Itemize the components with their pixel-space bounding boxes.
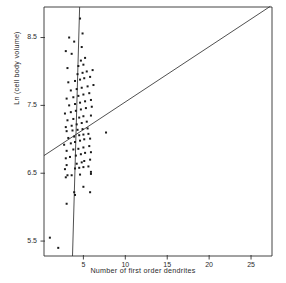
data-point: [78, 167, 80, 169]
data-point: [86, 70, 88, 72]
y-tick-label: 7.5: [15, 101, 37, 108]
data-point: [88, 92, 90, 94]
data-point: [71, 125, 73, 127]
data-point: [92, 69, 94, 71]
data-point: [71, 53, 73, 55]
fit-lines: [44, 6, 270, 256]
data-point: [90, 173, 92, 175]
data-point: [76, 123, 78, 125]
data-point: [83, 77, 85, 79]
data-point: [72, 118, 74, 120]
data-point: [80, 153, 82, 155]
data-point: [74, 80, 76, 82]
data-point: [89, 159, 91, 161]
data-point: [75, 155, 77, 157]
data-point: [74, 103, 76, 105]
data-point: [67, 137, 69, 139]
data-point: [84, 100, 86, 102]
data-point: [79, 174, 81, 176]
data-point: [76, 163, 78, 165]
x-tick-label: 25: [241, 261, 261, 268]
data-point: [83, 160, 85, 162]
data-point: [72, 148, 74, 150]
data-point: [82, 146, 84, 148]
data-point: [82, 94, 84, 96]
data-point: [72, 129, 74, 131]
data-point: [66, 150, 68, 152]
data-point: [82, 115, 84, 117]
data-point: [86, 121, 88, 123]
data-point: [74, 141, 76, 143]
data-point: [87, 133, 89, 135]
data-point: [73, 191, 75, 193]
data-point: [69, 156, 71, 158]
y-tick-label: 6.5: [15, 169, 37, 176]
data-point: [81, 161, 83, 163]
data-point: [64, 113, 66, 115]
data-point: [79, 102, 81, 104]
data-point: [79, 140, 81, 142]
scatter-plot-figure: Ln (cell body volume) Number of first or…: [0, 0, 286, 283]
data-point: [81, 87, 83, 89]
major-axis-line: [73, 7, 80, 256]
data-point: [57, 247, 59, 249]
data-point: [66, 164, 68, 166]
data-point: [78, 117, 80, 119]
data-point: [64, 168, 66, 170]
data-point: [77, 129, 79, 131]
data-point: [72, 96, 74, 98]
data-point: [66, 67, 68, 69]
data-point: [68, 37, 70, 39]
data-point: [68, 104, 70, 106]
data-point: [73, 41, 75, 43]
data-point: [79, 79, 81, 81]
y-axis-title: Ln (cell body volume): [12, 0, 21, 138]
data-point: [66, 203, 68, 205]
data-point: [70, 89, 72, 91]
data-point: [80, 108, 82, 110]
data-point: [66, 174, 68, 176]
data-point: [65, 157, 67, 159]
data-point: [77, 73, 79, 75]
data-point: [84, 152, 86, 154]
data-point: [82, 186, 84, 188]
data-point: [77, 148, 79, 150]
data-point: [89, 191, 91, 193]
y-tick-label: 5.5: [15, 237, 37, 244]
data-point: [81, 46, 83, 48]
data-point: [78, 134, 80, 136]
data-point: [82, 64, 84, 66]
data-point: [89, 76, 91, 78]
data-point: [77, 65, 79, 67]
y-axis-title-container: Ln (cell body volume): [12, 0, 24, 138]
data-point: [82, 128, 84, 130]
data-point: [70, 111, 72, 113]
x-tick-label: 10: [115, 261, 135, 268]
data-point: [91, 106, 93, 108]
data-point: [65, 126, 67, 128]
data-point: [74, 167, 76, 169]
data-point: [82, 72, 84, 74]
data-point: [66, 130, 68, 132]
regression-line: [44, 6, 270, 155]
data-point: [105, 132, 107, 134]
data-point: [79, 18, 81, 20]
data-point: [73, 136, 75, 138]
data-point: [90, 115, 92, 117]
data-point: [82, 32, 84, 34]
x-tick-label: 5: [73, 261, 93, 268]
data-point: [82, 134, 84, 136]
data-point: [65, 50, 67, 52]
data-point: [65, 176, 67, 178]
data-point: [87, 127, 89, 129]
data-point: [49, 237, 51, 239]
data-point: [90, 151, 92, 153]
plot-canvas: [0, 0, 286, 283]
data-point: [75, 110, 77, 112]
data-point: [92, 84, 94, 86]
data-point: [67, 81, 69, 83]
data-point: [90, 171, 92, 173]
data-point: [63, 144, 65, 146]
data-point: [85, 107, 87, 109]
data-point: [76, 88, 78, 90]
